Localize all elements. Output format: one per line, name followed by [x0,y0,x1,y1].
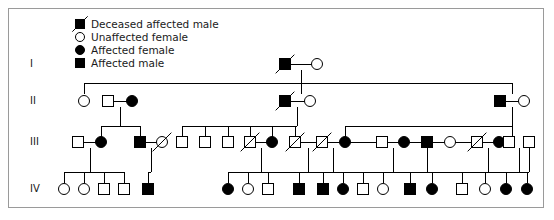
unaffected-female-circle [519,96,530,107]
individual-symbol-IV-9 [294,184,305,195]
affected-male-square [405,184,416,195]
unaffected-female-circle [59,184,70,195]
individual-symbol-I-2 [312,59,323,70]
individual-symbol-III-13 [377,137,388,148]
individual-symbol-IV-7 [243,184,254,195]
individual-symbol-II-6 [495,96,506,107]
affected-male-square [294,184,305,195]
unaffected-male-square [177,137,188,148]
affected-male-square [318,184,329,195]
individual-symbol-IV-15 [427,184,438,195]
affected-female-circle [75,45,84,54]
individual-symbol-IV-6 [223,184,234,195]
individual-symbol-II-1 [79,96,90,107]
unaffected-female-circle [312,59,323,70]
affected-female-circle [501,184,512,195]
legend-label-0: Deceased affected male [91,18,219,30]
unaffected-female-circle [79,184,90,195]
individual-symbol-IV-12 [358,184,369,195]
unaffected-male-square [103,96,114,107]
individual-symbol-IV-17 [480,184,491,195]
individual-symbol-III-5 [177,137,188,148]
unaffected-female-circle [75,32,84,41]
individual-symbol-III-20 [524,137,535,148]
individual-symbol-IV-19 [522,184,533,195]
generation-label-II: II [30,95,36,106]
individual-symbol-III-16 [445,137,456,148]
individual-symbol-IV-2 [79,184,90,195]
generation-label-IV: IV [30,183,40,194]
affected-female-circle [340,137,351,148]
legend-symbols-layer [72,16,87,67]
legend-symbol-0 [72,16,87,31]
pedigree-canvas [0,0,554,220]
individual-symbol-III-3 [135,137,146,148]
affected-male-square [135,137,146,148]
unaffected-female-circle [243,184,254,195]
generation-label-III: III [30,136,39,147]
individual-symbol-IV-4 [119,184,130,195]
deceased-slash-icon [72,16,87,31]
unaffected-male-square [457,184,468,195]
unaffected-male-square [99,184,110,195]
legend-label-3: Affected male [91,57,164,69]
unaffected-female-circle [480,184,491,195]
individual-symbol-III-6 [200,137,211,148]
unaffected-male-square [263,184,274,195]
individual-symbol-III-7 [223,137,234,148]
individual-symbol-IV-1 [59,184,70,195]
legend-symbol-2 [75,45,84,54]
individual-symbol-III-12 [340,137,351,148]
unaffected-female-circle [445,137,456,148]
individual-symbol-II-5 [305,96,316,107]
affected-female-circle [223,184,234,195]
legend-label-1: Unaffected female [91,31,188,43]
individual-symbol-III-2 [96,137,107,148]
affected-female-circle [267,137,278,148]
unaffected-male-square [73,137,84,148]
individual-symbol-III-18 [494,137,505,148]
affected-female-circle [338,184,349,195]
individual-symbol-III-1 [73,137,84,148]
individual-symbol-IV-11 [338,184,349,195]
affected-female-circle [127,96,138,107]
individual-symbol-III-19 [504,137,515,148]
individual-symbol-IV-13 [378,184,389,195]
connection-lines-layer [64,64,529,183]
legend-symbol-1 [75,32,84,41]
individual-symbol-II-3 [127,96,138,107]
generation-label-I: I [30,58,33,69]
affected-female-circle [399,137,410,148]
individual-symbol-IV-10 [318,184,329,195]
individual-symbol-IV-18 [501,184,512,195]
individual-symbol-II-7 [519,96,530,107]
unaffected-male-square [524,137,535,148]
affected-female-circle [427,184,438,195]
affected-male-square [75,58,84,67]
unaffected-male-square [223,137,234,148]
individual-symbol-III-9 [267,137,278,148]
individual-symbol-III-14 [399,137,410,148]
unaffected-male-square [119,184,130,195]
affected-male-square [495,96,506,107]
individual-symbol-IV-14 [405,184,416,195]
individual-symbol-III-15 [422,137,433,148]
legend-symbol-3 [75,58,84,67]
unaffected-male-square [358,184,369,195]
affected-female-circle [494,137,505,148]
unaffected-female-circle [378,184,389,195]
unaffected-female-circle [305,96,316,107]
unaffected-male-square [504,137,515,148]
unaffected-male-square [377,137,388,148]
pedigree-figure: Deceased affected maleUnaffected femaleA… [0,0,554,220]
individual-symbol-IV-8 [263,184,274,195]
individual-symbol-IV-3 [99,184,110,195]
affected-female-circle [96,137,107,148]
individual-symbol-II-2 [103,96,114,107]
individual-symbol-IV-16 [457,184,468,195]
legend-label-2: Affected female [91,44,174,56]
affected-female-circle [522,184,533,195]
unaffected-female-circle [79,96,90,107]
individual-symbol-IV-5 [143,184,154,195]
affected-male-square [422,137,433,148]
